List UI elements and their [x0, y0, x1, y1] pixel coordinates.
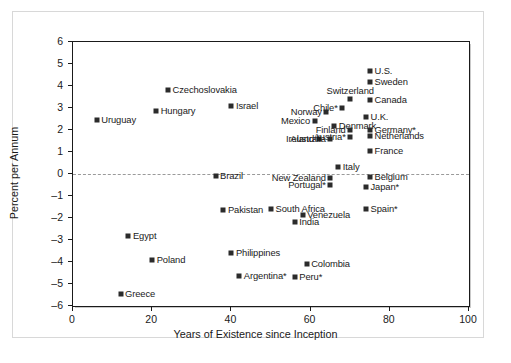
y-axis-title: Percent per Annum	[8, 127, 20, 219]
x-axis-tick-mark	[389, 306, 390, 311]
data-point-marker	[348, 134, 353, 139]
data-point-marker	[364, 114, 369, 119]
y-axis-tick-label: 4	[0, 79, 63, 91]
data-point-marker	[118, 291, 123, 296]
data-point-marker	[336, 165, 341, 170]
data-point-label: Peru*	[299, 273, 322, 282]
data-point-marker	[269, 207, 274, 212]
y-axis-tick-mark	[68, 63, 72, 64]
y-axis-tick-label: –4	[0, 255, 63, 267]
y-axis-tick-mark	[68, 173, 72, 174]
data-point-marker	[166, 88, 171, 93]
data-point-label: Netherlands	[375, 131, 424, 140]
y-axis-tick-label: –5	[0, 277, 63, 289]
data-point-label: Israel	[236, 101, 258, 110]
y-axis-tick-mark	[68, 239, 72, 240]
x-axis-tick-mark	[310, 306, 311, 311]
data-point-marker	[328, 183, 333, 188]
x-axis-tick-mark	[72, 306, 73, 311]
y-axis-tick-mark	[68, 261, 72, 262]
data-point-label: France	[375, 146, 404, 155]
data-point-label: Egypt	[133, 231, 156, 240]
data-point-label: Uruguay	[101, 115, 136, 124]
data-point-marker	[368, 128, 373, 133]
data-point-marker	[229, 103, 234, 108]
data-point-label: Sweden	[375, 77, 408, 86]
y-axis-tick-label: –3	[0, 233, 63, 245]
y-axis-tick-mark	[68, 107, 72, 108]
data-point-label: Argentina*	[244, 272, 287, 281]
data-point-marker	[154, 109, 159, 114]
x-axis-tick-label: 80	[383, 313, 395, 325]
y-axis-tick-mark	[68, 283, 72, 284]
data-point-label: Pakistan	[228, 206, 263, 215]
data-point-marker	[368, 98, 373, 103]
data-point-label: India	[299, 218, 319, 227]
y-axis-tick-mark	[68, 129, 72, 130]
x-axis-tick-mark	[468, 306, 469, 311]
data-point-label: Poland	[157, 255, 186, 264]
data-point-marker	[221, 208, 226, 213]
data-point-label: Mexico	[281, 116, 310, 125]
x-axis-tick-mark	[230, 306, 231, 311]
y-axis-tick-mark	[68, 85, 72, 86]
x-axis-tick-label: 0	[69, 313, 75, 325]
data-point-marker	[237, 274, 242, 279]
data-point-marker	[368, 68, 373, 73]
data-point-label: Philippines	[236, 248, 280, 257]
data-point-label: Australia	[290, 134, 326, 143]
data-point-label: Switzerland	[327, 85, 374, 94]
data-point-label: Spain*	[371, 204, 398, 213]
data-point-label: U.S.	[375, 66, 393, 75]
y-axis-tick-label: 5	[0, 57, 63, 69]
data-point-label: Hungary	[161, 107, 196, 116]
y-axis-tick-mark	[68, 41, 72, 42]
data-point-marker	[229, 251, 234, 256]
data-point-label: Czechoslovakia	[173, 86, 237, 95]
data-point-marker	[312, 119, 317, 124]
data-point-label: Greece	[125, 289, 155, 298]
x-axis-tick-label: 100	[459, 313, 477, 325]
chart-page: U.S.SwedenSwitzerlandCanadaChile*Czechos…	[0, 0, 511, 363]
x-axis-tick-label: 20	[145, 313, 157, 325]
data-point-label: Portugal*	[288, 180, 326, 189]
data-point-label: Brazil	[220, 171, 243, 180]
data-point-marker	[368, 175, 373, 180]
data-point-marker	[368, 133, 373, 138]
data-point-marker	[94, 118, 99, 123]
data-point-marker	[292, 275, 297, 280]
data-point-label: Italy	[343, 163, 360, 172]
scatter-plot-area: U.S.SwedenSwitzerlandCanadaChile*Czechos…	[72, 41, 470, 307]
y-axis-tick-label: 6	[0, 35, 63, 47]
x-axis-tick-label: 60	[304, 313, 316, 325]
data-point-marker	[304, 262, 309, 267]
x-axis-title: Years of Existence since Inception	[0, 328, 511, 340]
data-point-marker	[348, 128, 353, 133]
data-point-marker	[340, 106, 345, 111]
y-axis-tick-mark	[68, 217, 72, 218]
data-point-marker	[348, 97, 353, 102]
data-point-marker	[150, 257, 155, 262]
data-point-marker	[126, 233, 131, 238]
y-axis-tick-mark	[68, 151, 72, 152]
y-axis-tick-label: –6	[0, 299, 63, 311]
x-axis-tick-mark	[151, 306, 152, 311]
y-axis-tick-mark	[68, 195, 72, 196]
data-point-marker	[324, 110, 329, 115]
data-point-marker	[328, 136, 333, 141]
data-point-label: Japan*	[371, 182, 400, 191]
data-point-marker	[292, 220, 297, 225]
data-point-marker	[364, 185, 369, 190]
data-point-label: Colombia	[311, 259, 350, 268]
data-point-marker	[328, 176, 333, 181]
data-point-marker	[213, 174, 218, 179]
data-point-label: Canada	[375, 96, 407, 105]
x-axis-tick-label: 40	[225, 313, 237, 325]
data-point-marker	[364, 207, 369, 212]
y-axis-tick-label: 3	[0, 101, 63, 113]
data-point-marker	[368, 148, 373, 153]
